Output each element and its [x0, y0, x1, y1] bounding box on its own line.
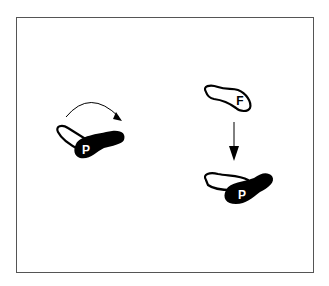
left-group: P: [57, 103, 124, 159]
down-arrow-head-icon: [229, 146, 239, 161]
foot-diagram: P F P: [0, 0, 329, 286]
bottom-foot-label: P: [238, 188, 246, 202]
left-foot-label: P: [82, 143, 90, 157]
right-group: F P: [205, 86, 273, 204]
top-foot-label: F: [236, 94, 243, 108]
curved-arrow-icon: [66, 103, 119, 118]
